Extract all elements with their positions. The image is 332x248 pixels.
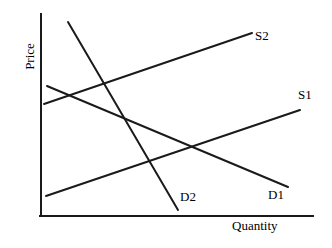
x-axis-title: Quantity [232, 219, 278, 232]
curve-label-s2: S2 [255, 29, 269, 42]
curve-label-d1: D1 [268, 188, 284, 201]
chart-canvas [0, 0, 332, 248]
demand-curve-d1 [47, 86, 288, 187]
supply-curve-s1 [46, 110, 300, 196]
supply-demand-chart: S2 S1 D2 D1 Quantity Price [0, 0, 332, 248]
supply-curve-s2 [44, 33, 252, 104]
curve-label-d2: D2 [180, 190, 196, 203]
curve-label-s1: S1 [298, 88, 312, 101]
y-axis-title: Price [23, 27, 36, 87]
demand-curve-d2 [68, 22, 178, 210]
